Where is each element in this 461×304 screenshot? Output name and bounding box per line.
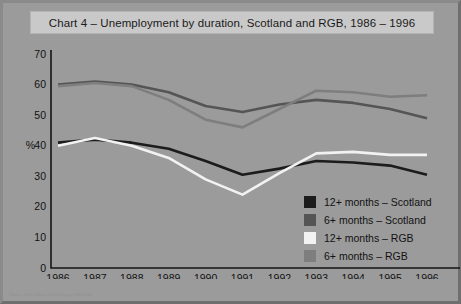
data-series-line — [58, 140, 427, 175]
legend-item: 6+ months – RGB — [304, 247, 454, 265]
x-tick-label: 1988 — [120, 272, 144, 279]
chart-legend: 12+ months – Scotland6+ months – Scotlan… — [304, 193, 454, 265]
x-tick-label: 1990 — [194, 272, 218, 279]
legend-item: 12+ months – Scotland — [304, 193, 454, 211]
y-tick-label: 20 — [34, 200, 46, 212]
y-axis-label: % — [26, 139, 35, 151]
data-series-line — [58, 138, 427, 195]
y-axis-ticks: 010203040506070 — [34, 48, 46, 274]
data-series-line — [58, 82, 427, 119]
chart-panel: Chart 4 – Unemployment by duration, Scot… — [0, 0, 461, 304]
y-tick-label: 10 — [34, 231, 46, 243]
x-tick-label: 1991 — [231, 272, 255, 279]
x-tick-label: 1994 — [342, 272, 366, 279]
legend-swatch-icon — [304, 196, 316, 208]
x-tick-label: 1992 — [268, 272, 292, 279]
page-title: Chart 4 – Unemployment by duration, Scot… — [49, 17, 415, 29]
chart-footnote: Source: ONS Labour Force Survey, 1986-19… — [9, 292, 309, 300]
y-tick-label: 50 — [34, 109, 46, 121]
data-series-group — [58, 82, 427, 195]
legend-item-label: 12+ months – RGB — [324, 232, 414, 244]
y-tick-label: 0 — [40, 262, 46, 274]
legend-item-label: 12+ months – Scotland — [324, 196, 432, 208]
y-tick-label: 40 — [34, 139, 46, 151]
legend-swatch-icon — [304, 250, 316, 262]
chart-title-box: Chart 4 – Unemployment by duration, Scot… — [30, 11, 434, 34]
legend-swatch-icon — [304, 232, 316, 244]
y-tick-label: 70 — [34, 48, 46, 60]
x-tick-label: 1995 — [378, 272, 402, 279]
x-tick-label: 1989 — [157, 272, 181, 279]
y-tick-label: 60 — [34, 78, 46, 90]
legend-item-label: 6+ months – RGB — [324, 250, 408, 262]
legend-item: 6+ months – Scotland — [304, 211, 454, 229]
x-axis-ticks: 1986198719881989199019911992199319941995… — [46, 272, 439, 279]
x-tick-label: 1986 — [46, 272, 70, 279]
legend-item-label: 6+ months – Scotland — [324, 214, 426, 226]
legend-item: 12+ months – RGB — [304, 229, 454, 247]
x-tick-label: 1996 — [415, 272, 439, 279]
y-tick-label: 30 — [34, 170, 46, 182]
x-tick-label: 1993 — [305, 272, 329, 279]
legend-swatch-icon — [304, 214, 316, 226]
x-tick-label: 1987 — [83, 272, 107, 279]
